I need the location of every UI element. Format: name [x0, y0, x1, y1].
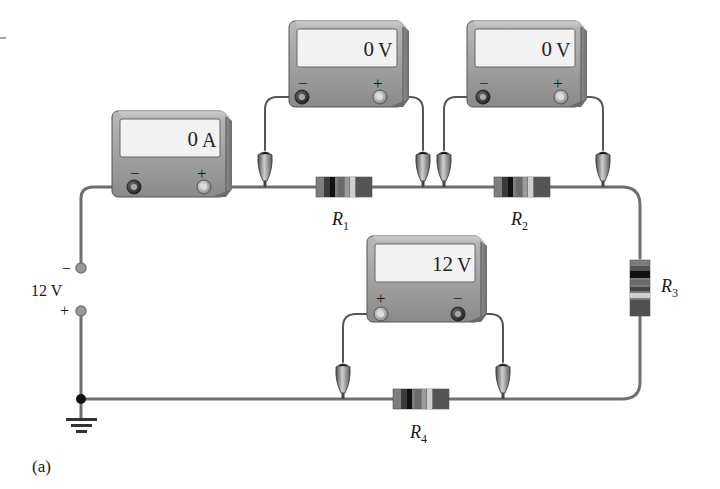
resistor-r2 — [494, 177, 550, 197]
circuit-wires — [81, 187, 640, 418]
voltage-source: − 12 V + — [31, 260, 86, 319]
resistor-r1-label: R1 — [331, 209, 349, 233]
source-neg-sign: − — [62, 260, 71, 277]
probe-clip-v1-pos — [416, 152, 430, 187]
source-negative-terminal — [76, 263, 86, 273]
voltmeter-r4-reading: 12 — [432, 252, 453, 276]
voltmeter-r2-reading: 0 — [542, 37, 553, 61]
resistor-r4-label: R4 — [409, 422, 427, 446]
probe-clip-v4-neg — [496, 364, 510, 399]
resistor-r4 — [393, 389, 449, 409]
probe-clip-v1-neg — [258, 152, 272, 187]
probe-clip-v2-neg — [437, 152, 451, 187]
resistor-r1 — [316, 177, 372, 197]
voltmeter-r2: 0 V − + — [467, 21, 587, 107]
resistor-r3 — [630, 260, 650, 316]
voltmeter-r1-unit: V — [378, 39, 393, 61]
resistor-r3-label: R3 — [660, 276, 678, 300]
probe-clip-v4-pos — [336, 364, 350, 399]
voltmeter-r2-unit: V — [556, 39, 571, 61]
ground-icon — [66, 418, 97, 433]
voltmeter-r4-unit: V — [457, 254, 472, 276]
voltmeter-r4-pos-sign: + — [376, 289, 386, 308]
voltmeter-r4: 12 V + − — [367, 236, 487, 322]
resistor-r2-label: R2 — [510, 209, 528, 233]
voltmeter-r4-neg-sign: − — [453, 289, 463, 308]
source-voltage-label: 12 V — [31, 282, 63, 299]
circuit-diagram: − 12 V + R1 R2 R3 R4 0 A − + — [0, 0, 720, 489]
voltmeter-r1-reading: 0 — [364, 37, 375, 61]
figure-caption: (a) — [32, 457, 51, 476]
ammeter: 0 A − + — [112, 111, 232, 197]
probe-clip-v2-pos — [596, 152, 610, 187]
source-pos-sign: + — [60, 302, 69, 319]
source-positive-terminal — [76, 306, 86, 316]
ground-node — [76, 394, 86, 404]
ammeter-reading: 0 — [188, 127, 199, 151]
ammeter-unit: A — [202, 129, 217, 151]
voltmeter-r1: 0 V − + — [289, 21, 409, 107]
